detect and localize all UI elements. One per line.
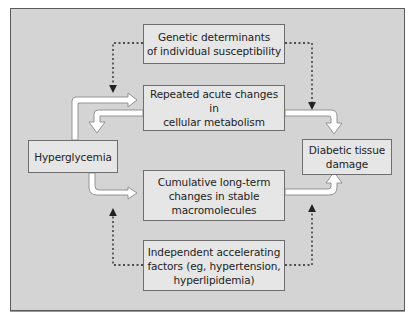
dotted-arrow-genetic-to-acute <box>113 43 143 89</box>
node-genetic-determinants: Genetic determinants of individual susce… <box>143 24 285 64</box>
node-genetic-determinants-label: Genetic determinants of individual susce… <box>147 30 281 58</box>
node-cumulative-long-term-changes: Cumulative long-term changes in stable m… <box>143 170 285 221</box>
hollow-arrow-hyperglycemia-to-cumulative <box>89 173 137 199</box>
node-hyperglycemia-label: Hyperglycemia <box>34 150 112 164</box>
hollow-arrow-hyperglycemia-to-acute <box>72 93 137 140</box>
dotted-arrow-independent-to-damage <box>285 208 312 265</box>
node-repeated-acute-changes: Repeated acute changes in cellular metab… <box>143 85 285 131</box>
node-hyperglycemia: Hyperglycemia <box>28 140 118 173</box>
node-diabetic-tissue-damage: Diabetic tissue damage <box>302 139 392 175</box>
node-cumulative-long-term-changes-label: Cumulative long-term changes in stable m… <box>158 175 271 217</box>
dotted-arrow-genetic-to-damage <box>285 43 312 106</box>
hollow-arrow-cumulative-to-damage <box>285 172 342 195</box>
hollow-arrow-acute-to-hyperglycemia <box>89 110 143 133</box>
node-independent-accelerating-factors: Independent accelerating factors (eg, hy… <box>143 240 285 291</box>
node-diabetic-tissue-damage-label: Diabetic tissue damage <box>309 143 385 171</box>
hollow-arrow-acute-to-damage <box>285 110 342 134</box>
node-repeated-acute-changes-label: Repeated acute changes in cellular metab… <box>144 87 284 129</box>
dotted-arrow-independent-to-cumulative <box>113 212 143 265</box>
node-independent-accelerating-factors-label: Independent accelerating factors (eg, hy… <box>147 245 280 287</box>
